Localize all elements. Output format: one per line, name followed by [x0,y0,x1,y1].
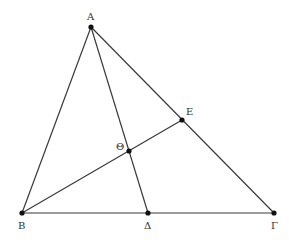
point-TH [126,148,131,153]
segments [22,27,274,213]
segment-A-D [91,27,148,213]
point-A [88,24,93,29]
point-label-A: Α [86,11,95,22]
point-label-TH: Θ [116,141,124,152]
geometry-diagram: ΑΒΔΓΕΘ [0,0,289,243]
point-D [145,210,150,215]
labels: ΑΒΔΓΕΘ [18,11,278,231]
point-E [179,117,184,122]
point-B [19,210,24,215]
point-label-G: Γ [271,220,278,231]
point-label-B: Β [18,220,25,231]
points [19,24,276,215]
point-label-E: Ε [186,106,193,117]
point-label-D: Δ [144,220,151,231]
segment-A-B [22,27,91,213]
point-G [271,210,276,215]
segment-B-E [22,120,182,213]
